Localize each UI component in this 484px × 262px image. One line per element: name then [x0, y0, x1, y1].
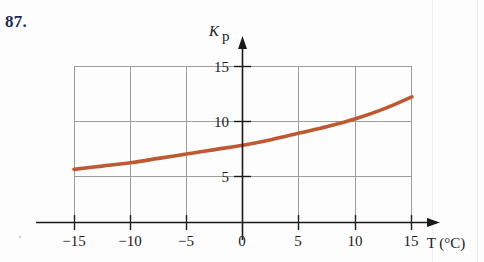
- x-tick-label--5: −5: [178, 233, 194, 249]
- y-tick-label-15: 15: [214, 59, 229, 75]
- x-tick-label-0: 0: [238, 233, 246, 249]
- y-tick-labels: 15 10 5: [214, 59, 229, 185]
- axis-titles: K p T (°C): [208, 23, 465, 252]
- figure-container: 87.: [0, 0, 484, 262]
- y-tick-label-5: 5: [222, 169, 230, 185]
- x-tick-label-15: 15: [404, 233, 419, 249]
- x-tick-labels: −15 −10 −5 0 5 10 15: [62, 233, 418, 249]
- x-tick-label--15: −15: [62, 233, 85, 249]
- y-tick-label-10: 10: [214, 114, 229, 130]
- plot-area: 15 10 5 −15 −10 −5 0 5 10 15 K p T (°C): [0, 0, 484, 262]
- x-tick-label-5: 5: [294, 233, 302, 249]
- y-axis-title-subscript: p: [222, 28, 230, 44]
- x-axis-arrowhead: [427, 218, 440, 227]
- x-tick-label-10: 10: [348, 233, 363, 249]
- x-axis-title: T (°C): [427, 235, 466, 252]
- y-axis-title-base: K: [208, 23, 220, 39]
- x-tick-label--10: −10: [118, 233, 141, 249]
- y-axis-arrowhead: [238, 36, 247, 49]
